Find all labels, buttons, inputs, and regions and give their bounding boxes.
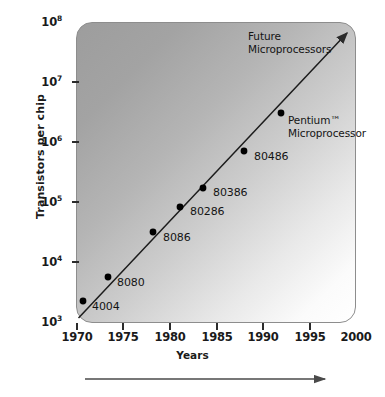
y-tick-label-1e6: 106 — [16, 135, 62, 149]
y-tick-exponent: 4 — [57, 254, 62, 263]
annotation-line-1: Pentium™ — [288, 114, 366, 127]
y-tick-exponent: 3 — [57, 314, 62, 323]
y-tick-label-1e8: 108 — [16, 15, 62, 29]
point-label-80486: 80486 — [254, 150, 289, 163]
x-tick-mark-1970 — [76, 323, 78, 330]
point-label-80286: 80286 — [190, 205, 225, 218]
x-tick-label-1980: 1980 — [143, 330, 197, 344]
annotation-future-microprocessors: Future Microprocessors — [248, 30, 331, 56]
annotation-line-2: Microprocessor — [288, 127, 366, 140]
y-tick-exponent: 7 — [57, 74, 62, 83]
y-tick-exponent: 8 — [57, 14, 62, 23]
y-tick-label-1e7: 107 — [16, 75, 62, 89]
point-label-80386: 80386 — [213, 186, 248, 199]
x-tick-label-1990: 1990 — [236, 330, 290, 344]
y-tick-mark-1e7 — [72, 81, 79, 83]
x-tick-label-2000: 2000 — [329, 330, 383, 344]
point-label-8080: 8080 — [117, 276, 145, 289]
x-tick-mark-1975 — [122, 323, 124, 330]
annotation-line-1: Future — [248, 30, 331, 43]
moores-law-chart: Transistors per chip 108 107 106 105 104… — [0, 0, 385, 397]
y-tick-mark-1e4 — [72, 261, 79, 263]
y-tick-mark-1e6 — [72, 141, 79, 143]
y-tick-mark-1e5 — [72, 201, 79, 203]
y-tick-label-1e5: 105 — [16, 195, 62, 209]
x-tick-mark-1985 — [216, 323, 218, 330]
point-label-4004: 4004 — [92, 300, 120, 313]
x-tick-mark-1990 — [262, 323, 264, 330]
x-tick-mark-1980 — [169, 323, 171, 330]
annotation-line-2: Microprocessors — [248, 43, 331, 56]
y-tick-exponent: 6 — [57, 134, 62, 143]
x-axis-title: Years — [0, 349, 385, 361]
x-tick-label-1975: 1975 — [96, 330, 150, 344]
y-tick-exponent: 5 — [57, 194, 62, 203]
point-label-8086: 8086 — [163, 231, 191, 244]
y-tick-label-1e3: 103 — [16, 315, 62, 329]
y-tick-label-1e4: 104 — [16, 255, 62, 269]
x-tick-mark-1995 — [309, 323, 311, 330]
annotation-pentium-microprocessor: Pentium™ Microprocessor — [288, 114, 366, 140]
